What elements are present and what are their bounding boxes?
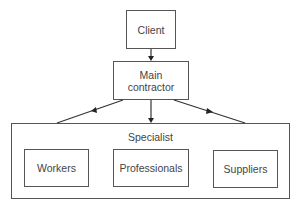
arrowhead-main-specialist-left: [91, 107, 97, 113]
specialist-label: Specialist: [11, 131, 290, 143]
suppliers-node: Suppliers: [213, 150, 278, 188]
professionals-node: Professionals: [113, 149, 189, 187]
edge-main-specialist-left: [57, 100, 123, 123]
edge-main-specialist-right: [174, 100, 245, 123]
main-contractor-node: Main contractor: [113, 61, 189, 100]
suppliers-label: Suppliers: [224, 163, 268, 175]
main-contractor-label-line1: Main: [140, 69, 163, 81]
main-contractor-label-line2: contractor: [128, 81, 175, 93]
client-label: Client: [138, 24, 165, 36]
client-node: Client: [126, 10, 176, 49]
workers-label: Workers: [37, 162, 76, 174]
professionals-label: Professionals: [119, 162, 182, 174]
arrowhead-main-specialist-right: [206, 108, 213, 114]
workers-node: Workers: [24, 149, 89, 187]
